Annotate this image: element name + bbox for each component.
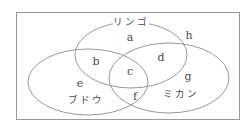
set-grape-label: ブドウ bbox=[68, 94, 104, 105]
region-a-label: a bbox=[127, 31, 134, 44]
set-orange-ellipse bbox=[109, 43, 229, 113]
set-apple-label: リンゴ bbox=[113, 16, 149, 27]
set-orange-label: ミカン bbox=[163, 88, 199, 99]
venn-diagram: リンゴ a h b d c e g f ブドウ ミカン bbox=[0, 0, 251, 129]
region-e-label: e bbox=[77, 77, 84, 90]
region-d-label: d bbox=[157, 51, 164, 64]
region-g-label: g bbox=[184, 70, 191, 83]
region-c-label: c bbox=[127, 65, 133, 78]
region-h-label: h bbox=[185, 29, 192, 42]
region-b-label: b bbox=[92, 55, 99, 68]
